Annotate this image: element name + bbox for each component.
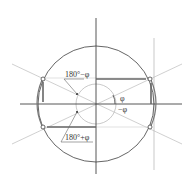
- label-neg-phi: −φ: [118, 105, 128, 114]
- label-phi: φ: [120, 94, 125, 103]
- unit-circle-diagram: 180°−φ 180°+φ φ −φ: [0, 0, 192, 174]
- leader-upper: [64, 79, 84, 94]
- point-upper-left: [41, 77, 45, 81]
- point-lower-left: [41, 125, 45, 129]
- point-upper-right: [148, 77, 152, 81]
- label-180-minus-phi: 180°−φ: [65, 70, 90, 79]
- label-180-plus-phi: 180°+φ: [65, 133, 90, 142]
- point-lower-right: [148, 125, 152, 129]
